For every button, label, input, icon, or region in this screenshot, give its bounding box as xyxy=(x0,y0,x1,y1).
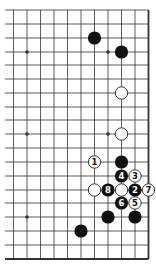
black-stone xyxy=(128,210,141,223)
move-number: 2 xyxy=(132,185,138,195)
black-stone xyxy=(101,210,114,223)
black-stone-disc xyxy=(101,210,114,223)
move-number: 4 xyxy=(119,171,125,181)
black-stone-disc xyxy=(88,31,101,44)
move-number: 5 xyxy=(132,198,138,208)
move-number: 1 xyxy=(92,157,98,167)
move-number: 6 xyxy=(119,198,125,208)
black-stone: 2 xyxy=(128,183,141,196)
white-stone xyxy=(88,184,100,196)
white-stone: 7 xyxy=(142,184,154,196)
black-stone xyxy=(74,224,87,237)
black-stone-disc xyxy=(115,45,128,58)
star-point xyxy=(25,132,29,136)
white-stone xyxy=(115,184,127,196)
black-stone xyxy=(88,31,101,44)
white-stone xyxy=(115,128,127,140)
white-stone-disc xyxy=(88,184,100,196)
black-stone xyxy=(115,45,128,58)
star-point xyxy=(25,215,29,219)
white-stone: 5 xyxy=(129,197,141,209)
white-stone xyxy=(115,87,127,99)
star-point xyxy=(25,50,29,54)
black-stone xyxy=(115,155,128,168)
black-stone: 6 xyxy=(115,196,128,209)
white-stone-disc xyxy=(115,87,127,99)
move-number: 8 xyxy=(105,185,111,195)
black-stone-disc xyxy=(74,224,87,237)
star-point xyxy=(106,132,110,136)
move-number: 7 xyxy=(146,185,152,195)
black-stone-disc xyxy=(128,210,141,223)
white-stone-disc xyxy=(115,128,127,140)
go-board: 14382765 xyxy=(0,0,156,270)
black-stone-disc xyxy=(115,155,128,168)
white-stone: 1 xyxy=(88,156,100,168)
move-number: 3 xyxy=(132,171,138,181)
stones: 14382765 xyxy=(74,31,154,237)
white-stone-disc xyxy=(115,184,127,196)
star-point xyxy=(106,50,110,54)
black-stone: 4 xyxy=(115,169,128,182)
black-stone: 8 xyxy=(101,183,114,196)
white-stone: 3 xyxy=(129,170,141,182)
